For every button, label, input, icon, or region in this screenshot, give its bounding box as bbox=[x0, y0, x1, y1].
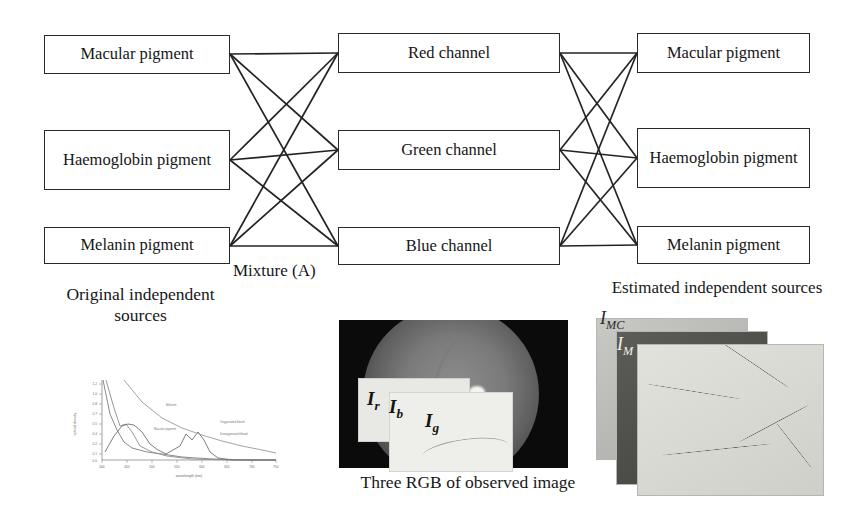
label-i-g: Ig bbox=[425, 410, 439, 436]
node-source-macular-pigment[interactable]: Macular pigment bbox=[44, 35, 230, 74]
svg-text:600: 600 bbox=[199, 465, 205, 469]
svg-text:700: 700 bbox=[249, 465, 255, 469]
svg-text:0.4: 0.4 bbox=[93, 432, 98, 436]
node-estimated-haemoglobin-pigment[interactable]: Haemoglobin pigment bbox=[637, 128, 810, 188]
node-source-melanin-pigment[interactable]: Melanin pigment bbox=[44, 227, 230, 264]
label-sub: r bbox=[374, 398, 379, 413]
node-channel-red[interactable]: Red channel bbox=[338, 33, 560, 73]
svg-text:0.0: 0.0 bbox=[93, 459, 98, 463]
vessel-segment bbox=[648, 384, 739, 399]
annotation-hb: Deoxygenated blood bbox=[220, 432, 248, 436]
label-sub: MC bbox=[606, 318, 624, 332]
label-sub: b bbox=[396, 406, 403, 421]
node-label: Macular pigment bbox=[663, 44, 784, 62]
wire-haemo-blue bbox=[230, 160, 338, 246]
svg-text:1.0: 1.0 bbox=[93, 392, 98, 396]
spectral-plot-svg: 1.21.0 0.80.7 0.50.4 0.20.1 0.0 400450 5… bbox=[62, 374, 288, 482]
wire-melanin-green bbox=[230, 150, 338, 246]
label-sub: g bbox=[432, 420, 439, 435]
label-i-r: Ir bbox=[367, 388, 380, 414]
node-label: Blue channel bbox=[402, 237, 497, 255]
annotation-melanin: Melanin bbox=[166, 403, 177, 407]
node-source-haemoglobin-pigment[interactable]: Haemoglobin pigment bbox=[44, 130, 230, 190]
node-label: Green channel bbox=[397, 141, 501, 159]
svg-text:0.2: 0.2 bbox=[93, 442, 98, 446]
annotation-macular: Macular pigment bbox=[154, 427, 176, 431]
svg-text:500: 500 bbox=[149, 465, 155, 469]
vessel-segment bbox=[717, 344, 789, 388]
curve-macular-pigment bbox=[105, 424, 276, 460]
caption-mixture: Mixture (A) bbox=[233, 261, 413, 281]
node-label: Melanin pigment bbox=[76, 236, 197, 254]
svg-text:400: 400 bbox=[99, 465, 105, 469]
wire-blue-est-haemo bbox=[560, 158, 637, 246]
svg-text:650: 650 bbox=[224, 465, 230, 469]
svg-text:0.8: 0.8 bbox=[93, 402, 98, 406]
svg-text:450: 450 bbox=[124, 465, 130, 469]
svg-text:wavelength (nm): wavelength (nm) bbox=[176, 474, 203, 478]
node-label: Red channel bbox=[404, 44, 494, 62]
caption-three-rgb: Three RGB of observed image bbox=[318, 472, 618, 493]
wire-blue-est-melanin bbox=[560, 245, 637, 246]
svg-text:0.1: 0.1 bbox=[93, 452, 98, 456]
vessel-segment bbox=[776, 423, 811, 468]
svg-text:750: 750 bbox=[273, 465, 279, 469]
annotation-hbo2: Oxygenated blood bbox=[220, 420, 245, 424]
estimated-image-haemoglobin bbox=[637, 344, 824, 496]
svg-text:0.5: 0.5 bbox=[93, 422, 98, 426]
caption-original-sources: Original independent sources bbox=[48, 284, 233, 326]
svg-text:1.2: 1.2 bbox=[93, 382, 98, 386]
node-channel-green[interactable]: Green channel bbox=[338, 130, 560, 170]
node-label: Haemoglobin pigment bbox=[59, 151, 215, 169]
diagram-canvas: Macular pigment Haemoglobin pigment Mela… bbox=[0, 0, 854, 523]
vessel-segment bbox=[662, 443, 772, 455]
vessel-trace bbox=[421, 433, 509, 468]
label-sub: M bbox=[623, 344, 633, 358]
label-i-m: IM bbox=[617, 334, 633, 359]
node-label: Haemoglobin pigment bbox=[645, 149, 801, 167]
vessel-segment bbox=[738, 404, 809, 442]
node-channel-blue[interactable]: Blue channel bbox=[338, 227, 560, 265]
svg-text:550: 550 bbox=[174, 465, 180, 469]
spectral-absorbance-chart: 1.21.0 0.80.7 0.50.4 0.20.1 0.0 400450 5… bbox=[62, 374, 288, 482]
caption-estimated-sources: Estimated independent sources bbox=[588, 278, 846, 298]
node-estimated-melanin-pigment[interactable]: Melanin pigment bbox=[637, 226, 810, 264]
curve-melanin bbox=[124, 380, 276, 453]
svg-text:0.7: 0.7 bbox=[93, 412, 98, 416]
svg-text:optical density: optical density bbox=[73, 412, 77, 435]
node-estimated-macular-pigment[interactable]: Macular pigment bbox=[637, 33, 810, 73]
label-i-b: Ib bbox=[389, 396, 403, 422]
node-label: Macular pigment bbox=[76, 45, 197, 63]
label-i-mc: IMC bbox=[600, 308, 624, 333]
wire-green-est-melanin bbox=[560, 150, 637, 245]
channel-tile-green bbox=[389, 392, 513, 472]
node-label: Melanin pigment bbox=[663, 236, 784, 254]
wire-macular-red bbox=[230, 53, 338, 54]
